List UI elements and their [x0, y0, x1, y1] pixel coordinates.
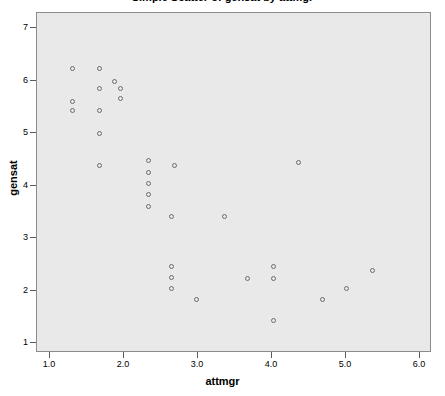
x-tick-label: 6.0 [402, 360, 436, 369]
x-tick [345, 352, 346, 358]
x-tick-label: 5.0 [328, 360, 362, 369]
y-tick [30, 80, 36, 81]
data-point [146, 158, 151, 163]
data-point [146, 204, 151, 209]
x-tick-label: 4.0 [254, 360, 288, 369]
x-tick [419, 352, 420, 358]
data-point [169, 214, 174, 219]
data-point [370, 268, 375, 273]
x-tick [49, 352, 50, 358]
data-point [112, 79, 117, 84]
y-tick [30, 290, 36, 291]
y-tick-label: 3 [6, 233, 28, 242]
chart-title: Simple Scatter of gensat by attmgr [0, 0, 445, 3]
data-point [118, 86, 123, 91]
data-point [169, 264, 174, 269]
data-point [97, 66, 102, 71]
x-tick-label: 2.0 [106, 360, 140, 369]
data-point [222, 214, 227, 219]
y-tick [30, 342, 36, 343]
y-tick-label: 2 [6, 286, 28, 295]
data-point [344, 286, 349, 291]
y-axis-label: gensat [7, 148, 19, 208]
y-tick [30, 185, 36, 186]
data-point [97, 86, 102, 91]
x-axis-label: attmgr [0, 375, 445, 387]
data-point [169, 286, 174, 291]
scatter-chart: Simple Scatter of gensat by attmgr 12345… [0, 0, 445, 396]
y-tick-label: 6 [6, 76, 28, 85]
data-point [146, 170, 151, 175]
y-tick-label: 7 [6, 23, 28, 32]
data-point [296, 160, 301, 165]
data-point [271, 276, 276, 281]
data-point [169, 275, 174, 280]
y-tick [30, 237, 36, 238]
data-point [271, 318, 276, 323]
data-point [97, 131, 102, 136]
x-tick [271, 352, 272, 358]
data-point [146, 192, 151, 197]
data-point [70, 66, 75, 71]
data-point [194, 297, 199, 302]
data-point [70, 108, 75, 113]
data-point [271, 264, 276, 269]
y-tick [30, 132, 36, 133]
x-tick [123, 352, 124, 358]
x-tick-label: 3.0 [180, 360, 214, 369]
data-point [70, 99, 75, 104]
x-tick-label: 1.0 [32, 360, 66, 369]
data-point [97, 163, 102, 168]
plot-area [36, 12, 431, 352]
data-point [172, 163, 177, 168]
y-tick-label: 1 [6, 338, 28, 347]
x-tick [197, 352, 198, 358]
y-tick [30, 27, 36, 28]
data-point [320, 297, 325, 302]
data-point [245, 276, 250, 281]
data-point [146, 181, 151, 186]
data-point [118, 96, 123, 101]
y-tick-label: 5 [6, 128, 28, 137]
data-point [97, 108, 102, 113]
